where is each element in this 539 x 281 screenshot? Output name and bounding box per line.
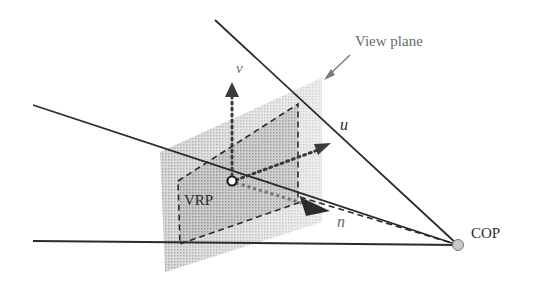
u-axis-label: u <box>340 116 348 133</box>
n-axis-label: n <box>337 213 345 230</box>
vrp-label: VRP <box>184 192 213 208</box>
cop-marker <box>453 240 464 251</box>
cop-label: COP <box>471 225 500 241</box>
viewing-diagram: View plane v u n VRP COP <box>0 0 539 281</box>
v-axis-label: v <box>236 60 243 76</box>
view-plane-label: View plane <box>355 33 423 49</box>
vrp-marker <box>228 177 237 186</box>
view-plane-pointer-arrow <box>324 55 350 80</box>
